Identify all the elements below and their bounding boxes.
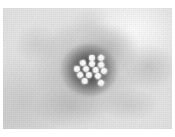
micrograph-plate <box>3 8 172 129</box>
electron-micrograph-figure <box>0 0 175 137</box>
virus-particle <box>82 78 88 84</box>
